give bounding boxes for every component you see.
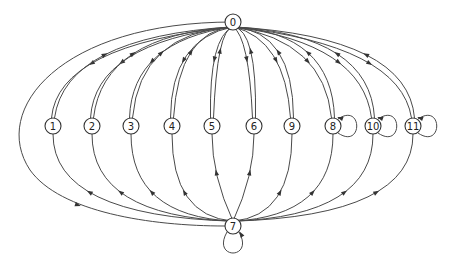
self-loop-7 [223,232,242,253]
node-label: 10 [367,121,380,132]
edge-7-to-6 [233,134,254,221]
edge-0-to-6 [233,27,253,118]
node-label: 6 [251,121,257,132]
edge-7-to-2 [92,134,233,221]
node-6: 6 [246,118,262,134]
node-1: 1 [45,118,61,134]
arrowhead-icon [373,189,380,196]
node-label: 11 [407,121,420,132]
arrowhead-icon [277,189,284,196]
node-10: 10 [365,115,397,137]
node-7: 7 [225,218,241,234]
node-label: 3 [128,121,134,132]
state-transition-diagram: 07123456981011 [0,0,450,261]
node-label: 7 [230,221,236,232]
edge-7-to-10 [233,134,373,221]
node-label: 9 [289,121,295,132]
node-0: 0 [225,14,241,30]
node-3: 3 [123,118,139,134]
node-label: 1 [50,121,56,132]
node-label: 8 [330,121,336,132]
node-4: 4 [164,118,180,134]
edge-7-to-1 [53,134,233,221]
arrowhead-icon [273,57,280,64]
node-label: 5 [209,121,215,132]
edge-8-to-0 [233,27,335,118]
node-2: 2 [84,118,100,134]
arrowhead-icon [181,189,188,196]
edge-7-to-9 [233,134,292,221]
node-9: 9 [284,118,300,134]
arrowhead-icon [333,50,340,57]
edge-5-to-0 [214,27,234,118]
node-label: 0 [230,17,236,28]
node-11: 11 [405,115,437,137]
edge-7-to-5 [212,134,233,221]
arrowhead-icon [248,47,254,54]
arrowhead-icon [217,47,223,54]
edges-group [19,22,414,253]
node-5: 5 [204,118,220,134]
node-8: 8 [325,115,357,137]
arrowhead-icon [366,60,373,67]
edge-7-to-4 [172,134,233,221]
graph-svg: 07123456981011 [0,0,450,261]
edge-7-to-8 [233,134,333,221]
arrowhead-icon [86,189,93,196]
node-label: 2 [89,121,95,132]
arrowhead-icon [362,51,369,58]
node-label: 4 [169,121,175,132]
edge-1-to-0 [55,27,234,118]
